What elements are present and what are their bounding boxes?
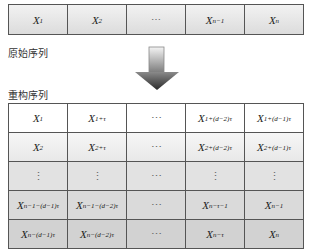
matrix-cell: Xn−(d−2)τ bbox=[68, 220, 127, 248]
cell-sub: n bbox=[276, 17, 280, 25]
cell-base: ⋯ bbox=[151, 14, 161, 25]
matrix-cell-ellipsis: ⋯ bbox=[127, 191, 186, 219]
cell-base: ⋮ bbox=[210, 170, 221, 183]
cell-base: X bbox=[88, 112, 95, 124]
down-arrow-icon bbox=[134, 46, 180, 92]
matrix-cell: X2+τ bbox=[68, 133, 127, 161]
cell-base: X bbox=[80, 228, 87, 240]
cell-base: ⋯ bbox=[151, 170, 162, 183]
cell-sub: n−(d−2)τ bbox=[87, 231, 114, 239]
cell-sub: n−1−(d−2)τ bbox=[83, 202, 118, 210]
matrix-cell: Xn−1−(d−2)τ bbox=[68, 191, 127, 219]
cell-base: X bbox=[92, 14, 99, 26]
cell-base: X bbox=[206, 228, 213, 240]
cell-sub: 1+τ bbox=[95, 115, 106, 123]
matrix-row: X1 X1+τ ⋯ X1+(d−2)τ X1+(d−1)τ bbox=[9, 104, 303, 133]
cell-base: X bbox=[88, 141, 95, 153]
cell-base: X bbox=[33, 141, 40, 153]
matrix-cell-vdots: ⋮ bbox=[245, 162, 303, 190]
cell-base: X bbox=[33, 14, 40, 26]
original-sequence-label: 原始序列 bbox=[8, 45, 48, 60]
cell-base: X bbox=[269, 14, 276, 26]
cell-base: X bbox=[76, 199, 83, 211]
matrix-cell: Xn−τ bbox=[186, 220, 245, 248]
matrix-cell: X2+(d−1)τ bbox=[245, 133, 303, 161]
cell-base: ⋯ bbox=[151, 141, 162, 154]
matrix-cell: X1+τ bbox=[68, 104, 127, 132]
matrix-row: Xn−1−(d−1)τ Xn−1−(d−2)τ ⋯ Xn−τ−1 Xn−1 bbox=[9, 191, 303, 220]
cell-sub: 2+(d−2)τ bbox=[205, 144, 232, 152]
cell-base: ⋯ bbox=[151, 228, 162, 241]
matrix-cell-ellipsis: ⋯ bbox=[127, 104, 186, 132]
matrix-cell: X1 bbox=[9, 104, 68, 132]
original-cell: X2 bbox=[68, 5, 127, 34]
cell-base: X bbox=[17, 199, 24, 211]
cell-sub: n−τ bbox=[213, 231, 224, 239]
cell-sub: 2 bbox=[99, 17, 103, 25]
original-sequence-row: X1 X2 ⋯ Xn−1 Xn bbox=[8, 4, 304, 35]
cell-base: X bbox=[198, 112, 205, 124]
matrix-cell: Xn−1 bbox=[245, 191, 303, 219]
original-cell: Xn−1 bbox=[186, 5, 245, 34]
original-cell: X1 bbox=[9, 5, 68, 34]
cell-base: X bbox=[269, 228, 276, 240]
cell-sub: 1+(d−1)τ bbox=[264, 115, 291, 123]
matrix-cell-vdots: ⋮ bbox=[68, 162, 127, 190]
reconstructed-sequence-label: 重构序列 bbox=[8, 87, 48, 102]
cell-sub: 2+τ bbox=[95, 144, 106, 152]
cell-base: X bbox=[198, 141, 205, 153]
cell-base: X bbox=[202, 199, 209, 211]
matrix-cell-vdots: ⋮ bbox=[186, 162, 245, 190]
matrix-cell-ellipsis: ⋯ bbox=[127, 162, 186, 190]
cell-sub: n bbox=[276, 231, 280, 239]
cell-sub: n−(d−1)τ bbox=[28, 231, 55, 239]
original-cell-ellipsis: ⋯ bbox=[127, 5, 186, 34]
matrix-cell-ellipsis: ⋯ bbox=[127, 133, 186, 161]
cell-sub: n−1 bbox=[272, 202, 284, 210]
original-cell: Xn bbox=[245, 5, 303, 34]
cell-base: X bbox=[206, 14, 213, 26]
cell-sub: 2+(d−1)τ bbox=[264, 144, 291, 152]
cell-base: ⋯ bbox=[151, 199, 162, 212]
cell-base: ⋮ bbox=[269, 170, 280, 183]
cell-sub: 1 bbox=[40, 115, 44, 123]
matrix-cell: X1+(d−2)τ bbox=[186, 104, 245, 132]
cell-base: X bbox=[21, 228, 28, 240]
cell-sub: 2 bbox=[40, 144, 44, 152]
cell-sub: 1+(d−2)τ bbox=[205, 115, 232, 123]
matrix-cell: X2 bbox=[9, 133, 68, 161]
cell-base: X bbox=[257, 141, 264, 153]
cell-sub: 1 bbox=[40, 17, 44, 25]
matrix-row: Xn−(d−1)τ Xn−(d−2)τ ⋯ Xn−τ Xn bbox=[9, 220, 303, 248]
cell-base: ⋮ bbox=[33, 170, 44, 183]
matrix-cell: Xn−1−(d−1)τ bbox=[9, 191, 68, 219]
cell-base: X bbox=[33, 112, 40, 124]
matrix-cell-ellipsis: ⋯ bbox=[127, 220, 186, 248]
cell-sub: n−1 bbox=[213, 17, 225, 25]
matrix-cell: Xn−τ−1 bbox=[186, 191, 245, 219]
matrix-cell: Xn−(d−1)τ bbox=[9, 220, 68, 248]
reconstructed-matrix: X1 X1+τ ⋯ X1+(d−2)τ X1+(d−1)τ X2 X2+τ ⋯ … bbox=[8, 103, 304, 249]
matrix-row-vertical-ellipsis: ⋮ ⋮ ⋯ ⋮ ⋮ bbox=[9, 162, 303, 191]
cell-base: ⋮ bbox=[92, 170, 103, 183]
matrix-cell: X1+(d−1)τ bbox=[245, 104, 303, 132]
cell-base: ⋯ bbox=[151, 112, 162, 125]
matrix-row: X2 X2+τ ⋯ X2+(d−2)τ X2+(d−1)τ bbox=[9, 133, 303, 162]
cell-sub: n−1−(d−1)τ bbox=[24, 202, 59, 210]
matrix-cell-vdots: ⋮ bbox=[9, 162, 68, 190]
matrix-cell: X2+(d−2)τ bbox=[186, 133, 245, 161]
cell-base: X bbox=[257, 112, 264, 124]
cell-base: X bbox=[265, 199, 272, 211]
matrix-cell: Xn bbox=[245, 220, 303, 248]
cell-sub: n−τ−1 bbox=[209, 202, 228, 210]
